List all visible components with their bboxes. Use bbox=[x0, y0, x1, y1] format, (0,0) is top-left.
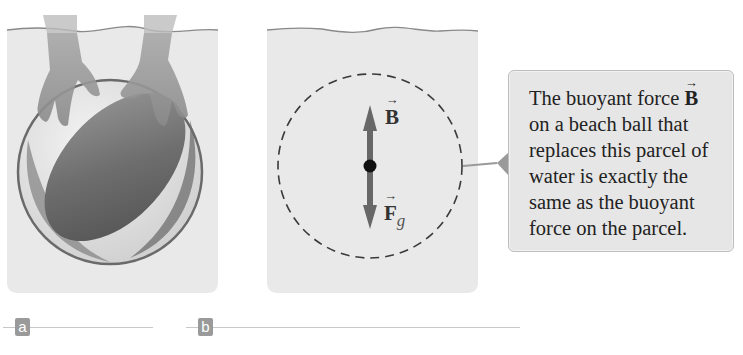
panel-label-b: b bbox=[198, 318, 213, 336]
center-dot bbox=[364, 160, 377, 173]
label-rule-b-left bbox=[186, 327, 198, 328]
explanation-callout: The buoyant force B on a beach ball that… bbox=[508, 70, 734, 252]
vector-symbol: B bbox=[385, 105, 399, 129]
panel-b bbox=[267, 27, 509, 293]
vector-label-fg: → Fg bbox=[384, 201, 405, 231]
vector-arrow-icon: → bbox=[385, 92, 399, 108]
label-rule-a-left bbox=[3, 327, 15, 328]
right-wrist-icon bbox=[144, 15, 177, 33]
label-rule-b bbox=[213, 327, 520, 328]
panel-a bbox=[7, 15, 218, 293]
vector-subscript: g bbox=[397, 211, 406, 230]
panel-label-a: a bbox=[15, 318, 30, 336]
callout-vector-symbol: B bbox=[684, 85, 698, 111]
left-wrist-icon bbox=[43, 15, 77, 33]
callout-text-end: on a beach ball that replaces this parce… bbox=[529, 113, 708, 239]
vector-symbol: F bbox=[384, 201, 397, 225]
vector-arrow-icon: → bbox=[384, 188, 393, 204]
callout-text-start: The buoyant force bbox=[529, 87, 684, 109]
label-rule-a bbox=[30, 327, 153, 328]
vector-label-b: → B bbox=[385, 105, 399, 130]
